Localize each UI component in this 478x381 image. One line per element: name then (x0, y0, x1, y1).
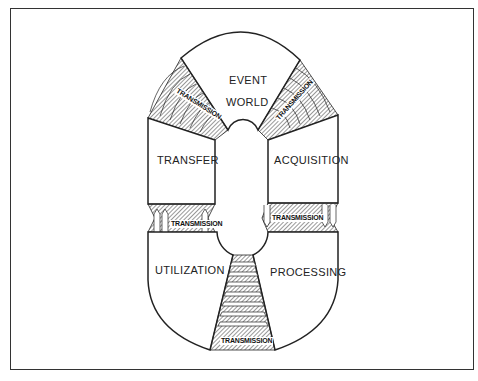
process-cycle-diagram (0, 0, 478, 381)
processing-label: PROCESSING (270, 266, 346, 278)
event-world-label-line1: EVENT (229, 74, 267, 86)
transmission-label-processing-utilization: TRANSMISSION (220, 337, 273, 345)
utilization-label: UTILIZATION (155, 264, 225, 276)
transmission-label-acquisition-processing: TRANSMISSION (271, 214, 324, 222)
transfer-label: TRANSFER (157, 154, 219, 166)
acquisition-label: ACQUISITION (274, 154, 349, 166)
event-world-label-line2: WORLD (226, 96, 268, 108)
transmission-label-utilization-transfer: TRANSMISSION (170, 220, 223, 228)
